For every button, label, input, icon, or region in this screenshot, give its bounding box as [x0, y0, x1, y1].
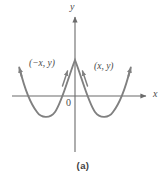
- figure-caption: (a): [0, 160, 166, 171]
- point-label-negative-x: (−x, y): [29, 59, 55, 69]
- point-label-positive-x: (x, y): [94, 62, 114, 72]
- graph-canvas: [0, 0, 166, 179]
- y-axis-label: y: [70, 2, 74, 12]
- curve-right-end-arrow-icon: [129, 68, 131, 77]
- even-function-figure: y x 0 (−x, y) (x, y) (a): [0, 0, 166, 179]
- origin-label: 0: [66, 98, 71, 108]
- curve-left-end-arrow-icon: [19, 68, 21, 77]
- x-axis-label: x: [153, 89, 157, 99]
